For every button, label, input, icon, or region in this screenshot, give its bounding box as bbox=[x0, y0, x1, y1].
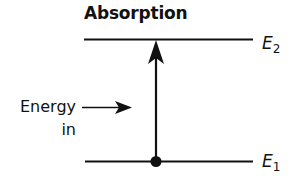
level-symbol: E bbox=[262, 33, 273, 53]
energy-label-line2: in bbox=[15, 118, 76, 141]
electron-dot-icon bbox=[151, 156, 162, 167]
energy-label-line1: Energy bbox=[15, 95, 76, 118]
level-subscript: 1 bbox=[273, 160, 281, 174]
level-label-e1: E1 bbox=[262, 151, 280, 174]
level-subscript: 2 bbox=[273, 42, 281, 56]
energy-in-label: Energy in bbox=[15, 95, 76, 141]
level-symbol: E bbox=[262, 151, 273, 171]
level-label-e2: E2 bbox=[262, 33, 280, 56]
